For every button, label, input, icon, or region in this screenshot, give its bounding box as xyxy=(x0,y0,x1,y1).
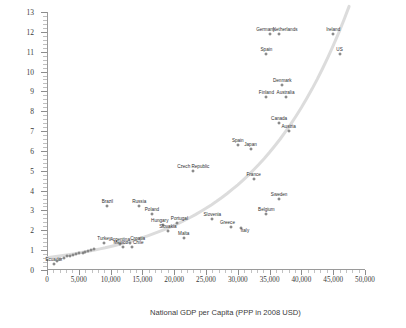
data-point xyxy=(265,52,268,55)
data-point-label: Japan xyxy=(244,142,257,147)
x-tick-minor xyxy=(219,270,220,273)
x-tick-minor xyxy=(85,270,86,273)
x-tick-minor xyxy=(155,270,156,273)
x-tick-minor xyxy=(225,270,226,273)
data-point xyxy=(278,197,281,200)
data-point xyxy=(332,32,335,35)
data-point-label: Chile xyxy=(133,240,143,245)
x-tick-minor xyxy=(257,270,258,273)
data-point xyxy=(55,260,58,263)
y-tick-label: 4 xyxy=(8,186,34,195)
data-point xyxy=(103,242,106,245)
data-point-label: Spain xyxy=(261,47,273,52)
data-point-label: Portugal xyxy=(171,216,188,221)
data-point-label: Austria xyxy=(282,124,296,129)
data-point xyxy=(150,213,153,216)
y-tick-label: 7 xyxy=(8,127,34,136)
data-point-label: Slovenia xyxy=(204,212,222,217)
data-point xyxy=(278,32,281,35)
x-tick-minor xyxy=(263,270,264,273)
x-tick-mark xyxy=(47,270,48,275)
data-point xyxy=(62,257,65,260)
x-tick-mark xyxy=(206,270,207,275)
data-point xyxy=(284,96,287,99)
y-tick-label: 12 xyxy=(8,27,34,36)
x-tick-minor xyxy=(193,270,194,273)
x-tick-minor xyxy=(346,270,347,273)
x-tick-minor xyxy=(53,270,54,273)
data-point xyxy=(93,248,96,251)
x-tick-minor xyxy=(60,270,61,273)
data-point-label: US xyxy=(336,47,342,52)
data-point-label: Slovakia xyxy=(159,224,176,229)
x-tick-minor xyxy=(181,270,182,273)
data-point xyxy=(249,147,252,150)
data-point-label: Czech Republic xyxy=(177,164,209,169)
x-tick-minor xyxy=(295,270,296,273)
data-point xyxy=(121,246,124,249)
x-tick-mark xyxy=(365,270,366,275)
x-tick-minor xyxy=(359,270,360,273)
data-point-label: Malta xyxy=(178,231,189,236)
data-point xyxy=(268,32,271,35)
x-tick-minor xyxy=(327,270,328,273)
data-point-label: Turkey xyxy=(97,236,111,241)
data-point xyxy=(278,122,281,125)
x-tick-minor xyxy=(104,270,105,273)
data-point-label: Greece xyxy=(220,220,235,225)
data-point-label: Canada xyxy=(271,116,287,121)
data-point xyxy=(138,205,141,208)
x-tick-minor xyxy=(244,270,245,273)
y-tick-label: 10 xyxy=(8,67,34,76)
x-tick-minor xyxy=(212,270,213,273)
data-point xyxy=(192,169,195,172)
x-tick-minor xyxy=(200,270,201,273)
data-point-label: Brazil xyxy=(102,199,114,204)
data-point xyxy=(265,213,268,216)
data-point xyxy=(106,205,109,208)
x-tick-minor xyxy=(289,270,290,273)
data-point xyxy=(230,226,233,229)
scatter-chart: Litres of Vegetable Oil per Hour Worked … xyxy=(0,0,406,328)
x-tick-mark xyxy=(111,270,112,275)
y-tick-label: 11 xyxy=(8,47,34,56)
data-point-label: Australia xyxy=(277,90,295,95)
x-tick-minor xyxy=(98,270,99,273)
y-tick-label: 3 xyxy=(8,206,34,215)
x-axis-title: National GDP per Capita (PPP in 2008 USD… xyxy=(150,308,301,317)
data-point-label: Russia xyxy=(132,199,146,204)
plot-area xyxy=(47,12,365,270)
data-point xyxy=(236,143,239,146)
x-tick-mark xyxy=(301,270,302,275)
data-point xyxy=(128,242,131,245)
data-point-label: Poland xyxy=(145,207,159,212)
x-tick-minor xyxy=(161,270,162,273)
x-tick-minor xyxy=(352,270,353,273)
data-point-label: Spain xyxy=(232,138,244,143)
y-tick-label: 2 xyxy=(8,226,34,235)
data-point-label: Hungary xyxy=(151,218,168,223)
x-tick-minor xyxy=(130,270,131,273)
data-point xyxy=(52,263,55,266)
data-point-label: Sweden xyxy=(271,192,288,197)
x-tick-minor xyxy=(276,270,277,273)
x-tick-mark xyxy=(270,270,271,275)
y-tick-label: 9 xyxy=(8,87,34,96)
data-point xyxy=(281,84,284,87)
data-point-label: Belgium xyxy=(258,207,275,212)
x-tick-mark xyxy=(238,270,239,275)
y-tick-label: 5 xyxy=(8,166,34,175)
x-tick-minor xyxy=(308,270,309,273)
x-tick-minor xyxy=(66,270,67,273)
data-point xyxy=(131,246,134,249)
data-point xyxy=(265,96,268,99)
x-tick-label: 50,000 xyxy=(344,276,386,284)
x-tick-minor xyxy=(149,270,150,273)
data-point-label: Finland xyxy=(259,90,274,95)
y-tick-label: 8 xyxy=(8,107,34,116)
data-point xyxy=(182,237,185,240)
y-tick-label: 13 xyxy=(8,8,34,17)
x-tick-minor xyxy=(282,270,283,273)
x-tick-mark xyxy=(142,270,143,275)
data-point-label: Netherlands xyxy=(273,27,298,32)
